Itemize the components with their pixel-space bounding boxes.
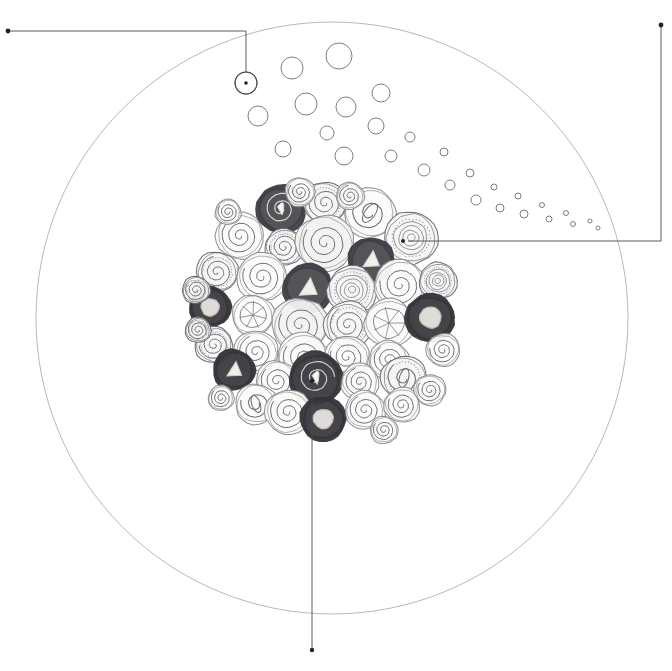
stipple-dot <box>205 355 206 356</box>
stipple-dot <box>201 297 202 298</box>
stipple-dot <box>393 231 394 232</box>
stipple-dot <box>198 299 199 300</box>
stipple-dot <box>445 269 446 270</box>
stipple-dot <box>231 269 232 270</box>
stipple-dot <box>441 267 442 268</box>
stipple-dot <box>450 285 451 286</box>
stipple-dot <box>397 225 398 226</box>
stipple-dot <box>205 289 206 290</box>
stipple-dot <box>186 289 187 290</box>
stipple-dot <box>317 188 318 189</box>
stipple-dot <box>292 235 293 236</box>
stipple-dot <box>217 332 218 333</box>
stipple-dot <box>201 282 202 283</box>
stipple-dot <box>189 326 190 327</box>
stipple-dot <box>334 292 335 293</box>
stipple-dot <box>212 257 213 258</box>
stipple-dot <box>429 237 430 238</box>
stipple-dot <box>449 287 450 288</box>
stipple-dot <box>202 274 203 275</box>
stipple-dot <box>429 234 430 235</box>
stipple-dot <box>203 294 204 295</box>
stipple-dot <box>311 211 312 212</box>
stipple-dot <box>361 276 362 277</box>
stipple-dot <box>334 190 335 191</box>
stipple-dot <box>432 269 433 270</box>
stipple-dot <box>399 362 400 363</box>
stipple-dot <box>436 266 437 267</box>
stipple-dot <box>346 272 347 273</box>
stipple-dot <box>357 311 358 312</box>
stipple-dot <box>429 230 430 231</box>
stipple-dot <box>201 271 202 272</box>
stipple-dot <box>190 323 191 324</box>
stipple-dot <box>187 294 188 295</box>
stipple-dot <box>365 301 366 302</box>
stipple-dot <box>341 276 342 277</box>
stipple-dot <box>231 274 232 275</box>
stipple-dot <box>443 269 444 270</box>
stipple-dot <box>295 251 296 252</box>
stipple-dot <box>334 312 335 313</box>
stipple-dot <box>186 291 187 292</box>
stipple-dot <box>315 214 316 215</box>
stipple-dot <box>201 321 202 322</box>
stipple-dot <box>278 235 279 236</box>
stipple-dot <box>361 303 362 304</box>
stipple-dot <box>334 289 335 290</box>
stipple-dot <box>389 368 390 369</box>
stipple-dot <box>226 344 227 345</box>
stipple-dot <box>194 299 195 300</box>
stipple-dot <box>227 281 228 282</box>
stipple-dot <box>368 296 369 297</box>
leader-terminus-dot <box>659 23 664 28</box>
stipple-dot <box>443 293 444 294</box>
stipple-dot <box>210 258 211 259</box>
stipple-dot <box>346 307 347 308</box>
stipple-dot <box>331 321 332 322</box>
stipple-dot <box>320 187 321 188</box>
stipple-dot <box>409 255 410 256</box>
stipple-dot <box>338 301 339 302</box>
stipple-dot <box>287 233 288 234</box>
stipple-dot <box>432 292 433 293</box>
stipple-dot <box>388 380 389 381</box>
stipple-dot <box>270 241 271 242</box>
stipple-dot <box>419 255 420 256</box>
stipple-dot <box>185 287 186 288</box>
stipple-dot <box>204 288 205 289</box>
leader-target-dot <box>310 379 314 383</box>
stipple-dot <box>214 332 215 333</box>
stipple-dot <box>326 187 327 188</box>
leader-target-dot <box>401 239 405 243</box>
stipple-dot <box>294 237 295 238</box>
stipple-dot <box>289 258 290 259</box>
stipple-dot <box>205 334 206 335</box>
stipple-dot <box>204 286 205 287</box>
stipple-dot <box>331 189 332 190</box>
stipple-dot <box>202 338 203 339</box>
spiral-form <box>301 398 345 440</box>
stipple-dot <box>203 322 204 323</box>
stipple-dot <box>349 307 350 308</box>
stipple-dot <box>198 280 199 281</box>
stipple-dot <box>402 254 403 255</box>
stipple-dot <box>284 259 285 260</box>
stipple-dot <box>338 211 339 212</box>
stipple-dot <box>393 244 394 245</box>
stipple-dot <box>419 220 420 221</box>
stipple-dot <box>425 285 426 286</box>
stipple-dot <box>367 283 368 284</box>
stipple-dot <box>202 351 203 352</box>
stipple-dot <box>200 347 201 348</box>
stipple-dot <box>189 281 190 282</box>
stipple-dot <box>195 337 196 338</box>
stipple-dot <box>280 234 281 235</box>
stipple-dot <box>270 251 271 252</box>
stipple-dot <box>394 227 395 228</box>
stipple-dot <box>422 222 423 223</box>
stipple-dot <box>280 258 281 259</box>
stipple-dot <box>207 328 208 329</box>
stipple-dot <box>427 271 428 272</box>
stipple-dot <box>450 283 451 284</box>
